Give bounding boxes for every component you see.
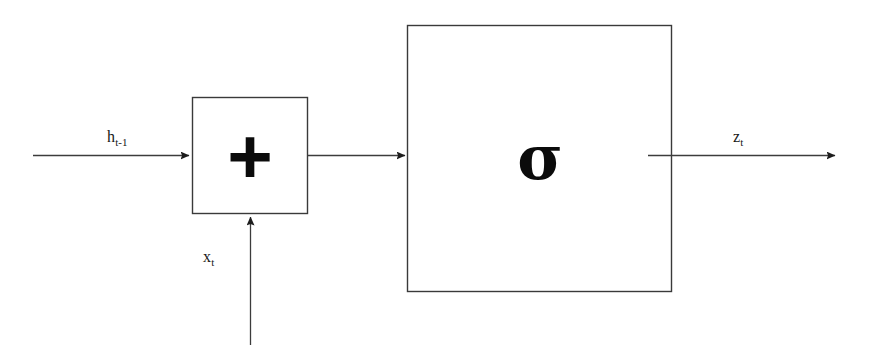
diagram-vector-layer <box>0 0 870 345</box>
sigma-icon: σ <box>500 118 580 198</box>
update-gate-output-label: zt <box>733 129 743 148</box>
diagram-canvas: + σ ht-1 xt zt <box>0 0 870 345</box>
hidden-state-input-label: ht-1 <box>107 129 127 148</box>
plus-icon: + <box>192 97 308 214</box>
hidden-state-label-base: h <box>107 128 115 145</box>
update-gate-label-subscript: t <box>740 136 743 148</box>
hidden-state-label-subscript: t-1 <box>115 136 127 148</box>
input-vector-label-base: x <box>203 248 211 265</box>
input-vector-label: xt <box>203 249 214 268</box>
input-vector-label-subscript: t <box>211 256 214 268</box>
